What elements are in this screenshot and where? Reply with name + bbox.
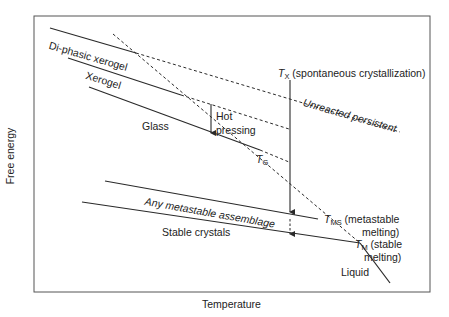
tx-description: (spontaneous crystallization)	[289, 67, 425, 79]
glass-label: Glass	[142, 120, 169, 132]
glass-line	[89, 87, 260, 150]
tms-subscript: MS	[330, 218, 341, 227]
tms-description-2: melting)	[362, 226, 399, 238]
tx-label: TX (spontaneous crystallization)	[278, 67, 425, 83]
hot-pressing-label-line2: pressing	[216, 124, 256, 136]
stable-crystals-label: Stable crystals	[162, 226, 230, 238]
tm-description-1: (stable	[368, 238, 402, 250]
liquid-label: Liquid	[341, 266, 369, 278]
tms-description-1: (metastable	[342, 213, 400, 225]
tg-label: TG	[256, 153, 268, 169]
y-axis-label: Free energy	[4, 128, 16, 185]
tg-subscript: G	[262, 158, 268, 167]
hot-pressing-label-line1: Hot	[216, 110, 232, 122]
tm-description-2: melting)	[364, 251, 401, 263]
x-axis-label: Temperature	[202, 298, 261, 310]
